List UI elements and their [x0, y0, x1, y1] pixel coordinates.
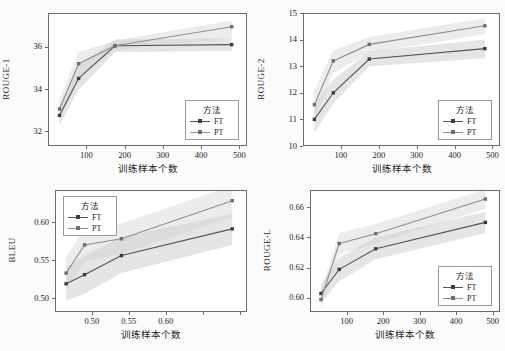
ytick-mark-rougeL-0 [307, 298, 310, 299]
xtick-mark-rougeL-2 [420, 312, 421, 315]
figure-root: 323436100200300400500ROUGE-1训练样本个数方法FTPT… [0, 0, 505, 351]
xtick-label-rougeL-3: 400 [442, 316, 470, 326]
xtick-label-rougeL-4: 500 [479, 316, 505, 326]
legend-label-pt: PT [467, 294, 476, 303]
legend-rougeL: 方法FTPT [438, 266, 492, 306]
legend-entry-ft-rougeL[interactable]: FT [443, 282, 487, 293]
legend-marker-pt [443, 294, 463, 303]
xtick-label-rougeL-0: 100 [333, 316, 361, 326]
y-axis-label-rougeL: ROUGE-L [262, 189, 272, 311]
ytick-mark-rougeL-1 [307, 268, 310, 269]
xtick-mark-rougeL-0 [347, 312, 348, 315]
legend-marker-ft [443, 283, 463, 292]
legend-label-ft: FT [467, 283, 476, 292]
xtick-mark-rougeL-3 [456, 312, 457, 315]
xtick-mark-rougeL-1 [383, 312, 384, 315]
ytick-mark-rougeL-2 [307, 237, 310, 238]
legend-dot-ft [451, 285, 455, 289]
panel-rougeL: 0.600.620.640.66100200300400500ROUGE-L训练… [0, 0, 505, 351]
xtick-label-rougeL-1: 200 [369, 316, 397, 326]
legend-title-rougeL: 方法 [443, 269, 487, 281]
xtick-mark-rougeL-4 [493, 312, 494, 315]
xtick-label-rougeL-2: 300 [406, 316, 434, 326]
x-axis-label-rougeL: 训练样本个数 [310, 327, 500, 341]
legend-dot-pt [451, 296, 455, 300]
legend-entry-pt-rougeL[interactable]: PT [443, 293, 487, 304]
ytick-mark-rougeL-3 [307, 207, 310, 208]
